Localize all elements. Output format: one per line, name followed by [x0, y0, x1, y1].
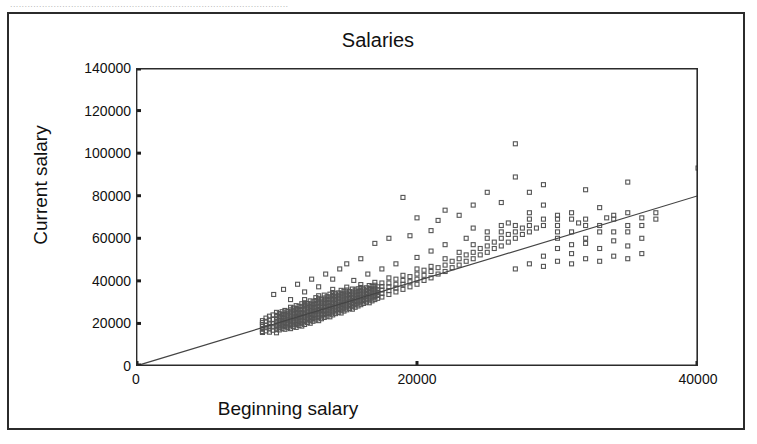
scatter-point [556, 259, 560, 263]
x-axis-label: Beginning salary [9, 397, 747, 420]
scatter-point [415, 255, 419, 259]
scatter-point [499, 224, 503, 228]
scatter-point [422, 268, 426, 272]
scatter-point [570, 252, 574, 256]
scatter-point [527, 224, 531, 228]
scatter-point [478, 247, 482, 251]
y-tick-label: 20000 [57, 316, 131, 330]
scatter-point [272, 292, 276, 296]
scatter-point [499, 230, 503, 234]
scatter-point [485, 244, 489, 248]
scatter-point [415, 216, 419, 220]
scatter-point [499, 201, 503, 205]
scatter-point [654, 217, 658, 221]
scatter-point [457, 213, 461, 217]
scatter-point [527, 190, 531, 194]
scatter-point [541, 224, 545, 228]
scatter-point [464, 259, 468, 263]
x-axis-tick-labels: 02000040000 [136, 372, 698, 392]
scatter-point [534, 226, 538, 230]
scatter-point [570, 211, 574, 215]
scatter-point [541, 183, 545, 187]
y-tick-label: 140000 [57, 61, 131, 75]
scatter-point [387, 236, 391, 240]
x-tick-label: 20000 [372, 372, 462, 386]
scatter-point [373, 241, 377, 245]
scatter-point [584, 241, 588, 245]
scatter-point [556, 247, 560, 251]
figure-frame: Salaries Current salary 0200004000060000… [7, 12, 745, 430]
scatter-point [380, 267, 384, 271]
scatter-point [626, 230, 630, 234]
scatter-point [640, 252, 644, 256]
scatter-point [471, 250, 475, 254]
scatter-point [605, 216, 609, 220]
scatter-point [471, 243, 475, 247]
y-tick-label: 40000 [57, 274, 131, 288]
scatter-point [626, 180, 630, 184]
y-tick-label: 100000 [57, 146, 131, 160]
scatter-point [640, 216, 644, 220]
scatter-point [584, 188, 588, 192]
x-tick-label: 0 [91, 372, 181, 386]
y-tick-label: 60000 [57, 231, 131, 245]
scatter-point [429, 249, 433, 253]
scatter-point [584, 257, 588, 261]
scatter-point [401, 195, 405, 199]
scatter-point [443, 243, 447, 247]
scatter-point [331, 277, 335, 281]
scatter-point [415, 282, 419, 286]
scatter-point [527, 230, 531, 234]
y-axis-tick-labels: 020000400006000080000100000120000140000 [51, 68, 131, 366]
scatter-point [556, 224, 560, 228]
scatter-point [429, 229, 433, 233]
scatter-point [464, 236, 468, 240]
scatter-point [626, 257, 630, 261]
scatter-point [457, 257, 461, 261]
scatter-point [499, 244, 503, 248]
scatter-point [492, 247, 496, 251]
scatter-point [408, 285, 412, 289]
scatter-point [541, 264, 545, 268]
scatter-point [408, 234, 412, 238]
scatter-point [359, 257, 363, 261]
scatter-point [401, 287, 405, 291]
scatter-point [429, 264, 433, 268]
scatter-point [471, 226, 475, 230]
scatter-point [443, 208, 447, 212]
scatter-point [513, 175, 517, 179]
scatter-point [598, 206, 602, 210]
regression-line [136, 196, 698, 366]
scatter-point [520, 232, 524, 236]
scatter-point [626, 211, 630, 215]
y-tick-label: 80000 [57, 189, 131, 203]
scan-top-artifact: ........................................… [0, 0, 757, 9]
scatter-point [366, 272, 370, 276]
scatter-point [499, 236, 503, 240]
scatter-point [598, 259, 602, 263]
scatter-points-group [260, 142, 698, 335]
plot-area [136, 68, 698, 366]
scatter-point [584, 217, 588, 221]
scatter-point [520, 226, 524, 230]
scatter-point [415, 272, 419, 276]
scatter-point [443, 263, 447, 267]
scatter-point [626, 224, 630, 228]
scatter-point [612, 230, 616, 234]
scatter-point [577, 221, 581, 225]
scatter-point [303, 290, 307, 294]
scatter-point [436, 218, 440, 222]
scatter-point [394, 262, 398, 266]
scatter-point [317, 285, 321, 289]
scatter-point [570, 243, 574, 247]
scatter-point [654, 211, 658, 215]
scatter-point [457, 250, 461, 254]
scatter-point [527, 217, 531, 221]
scatter-point [506, 221, 510, 225]
scatter-point [485, 250, 489, 254]
scatter-point [556, 230, 560, 234]
scatter-point [513, 230, 517, 234]
scatter-point [310, 277, 314, 281]
y-tick-label: 120000 [57, 104, 131, 118]
scatter-point [338, 267, 342, 271]
